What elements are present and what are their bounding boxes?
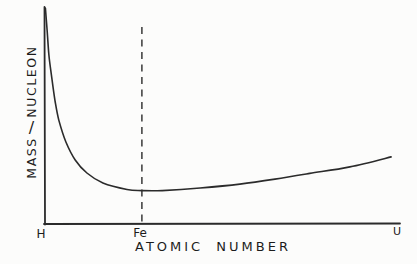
y-axis-line xyxy=(45,7,46,225)
x-axis-line xyxy=(44,224,400,225)
y-axis-label-slash: / xyxy=(28,118,33,137)
figure: MASS / NUCLEON ATOMIC NUMBER H Fe U xyxy=(0,0,417,264)
y-axis-label-word-nucleon: NUCLEON xyxy=(24,45,39,117)
chart-canvas xyxy=(0,0,417,264)
y-axis-label: MASS / NUCLEON xyxy=(22,37,40,187)
mass-per-nucleon-curve xyxy=(45,8,391,191)
x-tick-label-u: U xyxy=(382,225,412,238)
x-tick-label-h: H xyxy=(26,227,56,241)
y-axis-label-word-mass: MASS xyxy=(24,137,39,179)
x-tick-label-fe: Fe xyxy=(125,226,155,240)
x-axis-label: ATOMIC NUMBER xyxy=(133,239,293,254)
